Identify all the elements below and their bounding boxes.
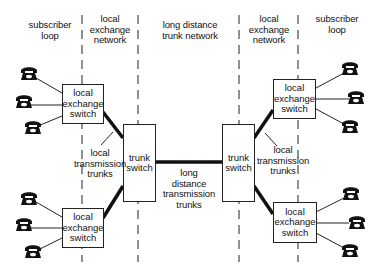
left-trunk-switch[interactable]: trunk switch [123, 124, 156, 202]
column-header-left-subscriber-loop: subscriber loop [22, 20, 78, 41]
right-trunk-switch[interactable]: trunk switch [222, 124, 255, 202]
header-line: local [243, 14, 295, 25]
right-top-local-exchange-switch[interactable]: local exchange switch [273, 79, 316, 119]
column-header-long-distance-trunk-network: long distance trunk network [145, 20, 235, 41]
header-line: long distance [145, 20, 235, 31]
edge-label-line: long [158, 168, 220, 179]
left-top-local-exchange-switch[interactable]: local exchange switch [62, 84, 104, 124]
column-dividers [82, 15, 298, 262]
header-line: network [84, 35, 136, 46]
header-line: network [243, 35, 295, 46]
header-line: local [84, 14, 136, 25]
column-header-right-local-exchange-network: local exchange network [243, 14, 295, 46]
column-header-right-subscriber-loop: subscriber loop [307, 14, 367, 35]
header-line: subscriber [307, 14, 367, 25]
header-line: loop [22, 31, 78, 42]
edge-label-line: local [74, 148, 126, 159]
edge-label-line: local [257, 145, 309, 156]
header-line: subscriber [22, 20, 78, 31]
edge-label-line: trunks [257, 166, 309, 177]
node-label: switch [281, 104, 307, 115]
right-bottom-local-exchange-switch[interactable]: local exchange switch [273, 202, 317, 243]
left-bottom-local-exchange-switch[interactable]: local exchange switch [62, 208, 104, 248]
node-label: switch [225, 163, 251, 174]
node-label: switch [282, 228, 308, 239]
column-header-left-local-exchange-network: local exchange network [84, 14, 136, 46]
long-distance-transmission-trunks-label: long distance transmission trunks [158, 168, 220, 210]
node-label: switch [70, 109, 96, 120]
left-local-transmission-trunks-label: local transmission trunks [74, 148, 126, 180]
edge-label-line: trunks [74, 169, 126, 180]
edge-label-line: transmission [158, 189, 220, 200]
diagram-lines [0, 0, 379, 277]
header-line: loop [307, 25, 367, 36]
node-label: switch [126, 163, 152, 174]
node-label: switch [70, 233, 96, 244]
header-line: trunk network [145, 31, 235, 42]
edge-label-line: trunks [158, 200, 220, 211]
right-local-transmission-trunks-label: local transmission trunks [257, 145, 309, 177]
